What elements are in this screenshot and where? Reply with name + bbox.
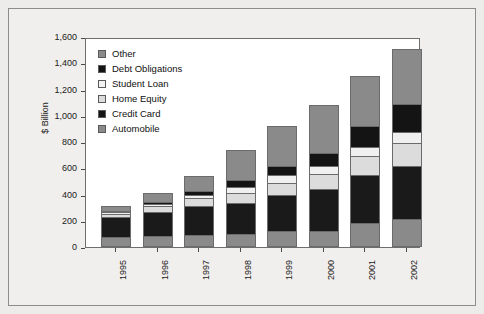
bar-segment-automobile [226, 234, 256, 247]
y-axis-tick-mark [81, 38, 85, 39]
bar-2001[interactable] [350, 76, 380, 247]
y-axis-tick-label: 0 [33, 243, 77, 252]
bar-1998[interactable] [226, 150, 256, 247]
bar-segment-home-equity [350, 156, 380, 174]
chart-figure: $ Billion OtherDebt ObligationsStudent L… [0, 0, 484, 314]
bar-segment-home-equity [184, 198, 214, 206]
bar-segment-automobile [309, 231, 339, 247]
bar-1999[interactable] [267, 126, 297, 247]
y-axis-tick-label: 200 [33, 217, 77, 226]
x-axis-tick-mark [198, 248, 199, 252]
legend-item-credit-card[interactable]: Credit Card [98, 107, 182, 121]
legend-swatch-icon [98, 110, 106, 118]
bar-segment-credit-card [184, 206, 214, 234]
bar-segment-debt-obligations [267, 166, 297, 176]
bar-segment-home-equity [392, 143, 422, 167]
bar-segment-other [392, 49, 422, 103]
x-axis-tick-label: 2002 [410, 260, 419, 280]
legend-item-automobile[interactable]: Automobile [98, 122, 182, 136]
chart-legend: OtherDebt ObligationsStudent LoanHome Eq… [98, 47, 182, 137]
legend-item-label: Credit Card [112, 109, 161, 119]
bar-segment-student-loan [267, 175, 297, 182]
bar-segment-home-equity [309, 174, 339, 188]
legend-swatch-icon [98, 80, 106, 88]
legend-item-label: Debt Obligations [112, 64, 182, 74]
bar-segment-debt-obligations [226, 180, 256, 187]
bar-1997[interactable] [184, 176, 214, 247]
y-axis-tick-label: 800 [33, 138, 77, 147]
y-axis-tick-label: 400 [33, 191, 77, 200]
bar-segment-automobile [184, 235, 214, 247]
bar-2000[interactable] [309, 105, 339, 247]
y-axis-tick-label: 1,600 [33, 33, 77, 42]
bar-segment-home-equity [267, 183, 297, 195]
bar-segment-debt-obligations [309, 153, 339, 166]
bar-1995[interactable] [101, 206, 131, 247]
bar-segment-credit-card [392, 166, 422, 219]
legend-item-debt-obligations[interactable]: Debt Obligations [98, 62, 182, 76]
bar-2002[interactable] [392, 49, 422, 247]
bar-segment-automobile [267, 231, 297, 247]
bar-segment-other [226, 150, 256, 180]
y-axis-tick-mark [81, 222, 85, 223]
bar-segment-credit-card [309, 189, 339, 231]
x-axis-tick-label: 1995 [119, 260, 128, 280]
legend-item-label: Other [112, 49, 136, 59]
x-axis-tick-label: 1998 [244, 260, 253, 280]
legend-item-label: Home Equity [112, 94, 166, 104]
y-axis-tick-mark [81, 248, 85, 249]
x-axis-tick-mark [364, 248, 365, 252]
legend-item-home-equity[interactable]: Home Equity [98, 92, 182, 106]
bar-segment-credit-card [143, 212, 173, 236]
y-axis-tick-label: 1,000 [33, 112, 77, 121]
bar-segment-credit-card [350, 175, 380, 224]
x-axis-tick-label: 1997 [202, 260, 211, 280]
y-axis-tick-mark [81, 64, 85, 65]
legend-item-label: Student Loan [112, 79, 169, 89]
x-axis-tick-label: 2001 [368, 260, 377, 280]
figure-frame: $ Billion OtherDebt ObligationsStudent L… [8, 8, 476, 306]
bar-segment-debt-obligations [350, 126, 380, 147]
x-axis-tick-mark [281, 248, 282, 252]
bar-segment-debt-obligations [392, 104, 422, 132]
bar-segment-other [267, 126, 297, 165]
x-axis-tick-label: 2000 [327, 260, 336, 280]
bar-segment-automobile [101, 237, 131, 247]
plot-area: OtherDebt ObligationsStudent LoanHome Eq… [85, 38, 420, 248]
y-axis-tick-mark [81, 143, 85, 144]
legend-item-label: Automobile [112, 124, 160, 134]
x-axis-tick-mark [406, 248, 407, 252]
x-axis-tick-mark [240, 248, 241, 252]
bar-segment-other [184, 176, 214, 190]
bar-segment-other [143, 193, 173, 202]
bar-segment-student-loan [350, 147, 380, 157]
bar-segment-student-loan [309, 166, 339, 175]
x-axis-tick-label: 1999 [285, 260, 294, 280]
legend-item-other[interactable]: Other [98, 47, 182, 61]
legend-swatch-icon [98, 65, 106, 73]
bar-segment-other [350, 76, 380, 125]
legend-swatch-icon [98, 125, 106, 133]
bar-segment-automobile [143, 236, 173, 247]
y-axis-tick-mark [81, 196, 85, 197]
bar-segment-credit-card [101, 217, 131, 237]
x-axis-tick-mark [115, 248, 116, 252]
bar-segment-automobile [350, 223, 380, 247]
y-axis-tick-label: 1,200 [33, 86, 77, 95]
bar-segment-student-loan [392, 132, 422, 143]
legend-swatch-icon [98, 50, 106, 58]
y-axis-tick-label: 600 [33, 164, 77, 173]
y-axis-tick-mark [81, 91, 85, 92]
bar-segment-automobile [392, 219, 422, 247]
y-axis-tick-label: 1,400 [33, 59, 77, 68]
bar-segment-home-equity [226, 193, 256, 204]
legend-item-student-loan[interactable]: Student Loan [98, 77, 182, 91]
bar-segment-other [309, 105, 339, 152]
x-axis-tick-mark [157, 248, 158, 252]
bar-segment-credit-card [226, 203, 256, 234]
y-axis-tick-mark [81, 169, 85, 170]
bar-1996[interactable] [143, 193, 173, 247]
y-axis-tick-mark [81, 117, 85, 118]
x-axis-tick-label: 1996 [161, 260, 170, 280]
legend-swatch-icon [98, 95, 106, 103]
